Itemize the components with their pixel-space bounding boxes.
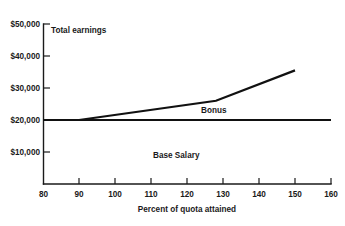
- y-tick-label: $40,000: [10, 52, 40, 61]
- series-line-total-earnings: [44, 70, 296, 120]
- y-axis-tick-labels: $50,000 $40,000 $30,000 $20,000 $10,000: [10, 20, 40, 157]
- y-tick-label: $10,000: [10, 148, 40, 157]
- y-axis-ticks: [44, 24, 51, 152]
- x-tick-label: 120: [180, 190, 194, 199]
- x-tick-label: 140: [252, 190, 266, 199]
- x-tick-label: 90: [74, 190, 84, 199]
- x-tick-label: 130: [216, 190, 230, 199]
- line-chart-canvas: $50,000 $40,000 $30,000 $20,000 $10,000 …: [0, 0, 345, 226]
- y-tick-label: $50,000: [10, 20, 40, 29]
- x-axis-tick-labels: 80 90 100 110 120 130 140 150 160: [39, 190, 338, 199]
- x-tick-label: 80: [39, 190, 49, 199]
- y-tick-label: $30,000: [10, 84, 40, 93]
- annotation-base-salary: Base Salary: [153, 151, 200, 160]
- y-tick-label: $20,000: [10, 116, 40, 125]
- chart-figure: $50,000 $40,000 $30,000 $20,000 $10,000 …: [0, 0, 345, 226]
- x-axis-title: Percent of quota attained: [138, 205, 236, 214]
- x-tick-label: 110: [144, 190, 158, 199]
- x-tick-label: 100: [108, 190, 122, 199]
- x-tick-label: 160: [324, 190, 338, 199]
- annotation-bonus: Bonus: [201, 106, 227, 115]
- x-axis-ticks: [79, 178, 331, 184]
- x-tick-label: 150: [288, 190, 302, 199]
- annotation-total-earnings: Total earnings: [51, 26, 107, 35]
